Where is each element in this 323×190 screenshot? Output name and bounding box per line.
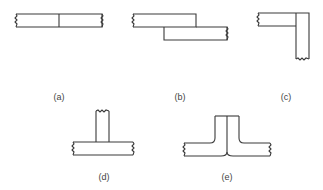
right-plate-outer (227, 152, 270, 156)
break-line-bottom (296, 58, 309, 60)
panel-c-corner-joint (257, 13, 309, 60)
left-plate-outer (184, 152, 227, 156)
stem-plate (96, 111, 109, 142)
joint-types-diagram (0, 0, 323, 190)
panel-label-c: (c) (281, 92, 292, 102)
break-line-left (257, 13, 259, 26)
panel-b-lap-joint (132, 14, 228, 40)
panel-label-d: (d) (99, 172, 110, 182)
lower-plate (164, 27, 227, 40)
upper-plate (133, 14, 196, 27)
break-line-right (269, 143, 271, 156)
panel-label-a: (a) (54, 92, 65, 102)
panel-label-e: (e) (222, 172, 233, 182)
break-line-left (132, 14, 134, 27)
break-line-left (72, 142, 74, 155)
base-plate (73, 142, 133, 155)
break-line-right (132, 142, 134, 155)
break-line-top (96, 110, 109, 112)
panel-d-tee-joint (72, 110, 134, 155)
panel-a-butt-joint (15, 14, 103, 27)
outer-edge (258, 13, 309, 59)
break-line-left (183, 143, 185, 156)
panel-label-b: (b) (175, 92, 186, 102)
break-line-left (15, 14, 17, 27)
left-plate-inner (184, 116, 215, 143)
right-plate-inner (239, 116, 270, 143)
panel-e-flange-joint (183, 116, 271, 156)
